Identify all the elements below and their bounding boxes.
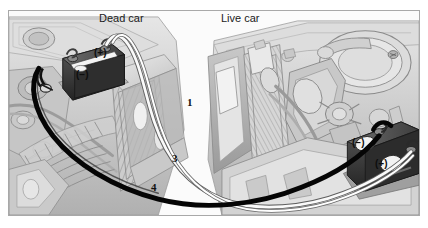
illustration-frame: Dead car Live car (+) (−) (−) (+) 1 3 4 (8, 10, 420, 216)
callout-3-label: 3 (172, 153, 178, 164)
live-car-group (208, 21, 419, 215)
live-car-label: Live car (221, 13, 260, 24)
dead-battery-positive-mark: (+) (94, 48, 107, 58)
jump-start-illustration (9, 11, 419, 215)
callout-4-label: 4 (151, 182, 157, 193)
live-battery-positive-mark: (+) (375, 159, 388, 169)
dead-battery-negative-mark: (−) (76, 70, 89, 80)
jump-start-figure: Dead car Live car (+) (−) (−) (+) 1 3 4 (0, 0, 428, 228)
live-battery-negative-mark: (−) (352, 138, 365, 148)
callout-1-label: 1 (187, 97, 193, 108)
dead-car-label: Dead car (99, 13, 144, 24)
